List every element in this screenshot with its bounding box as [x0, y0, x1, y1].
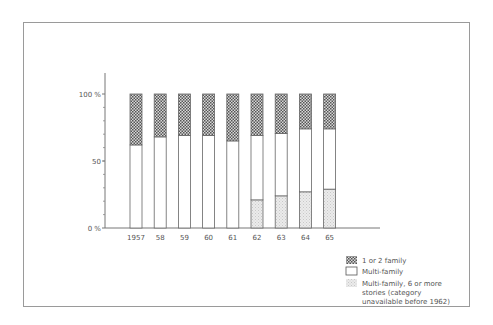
bar-segment [324, 129, 336, 189]
bar-segment [178, 94, 190, 136]
stacked-bar-chart: 0 %50100 % 19575859606162636465 1 or 2 f… [0, 0, 493, 325]
bar-segment [299, 192, 311, 228]
legend-label: Multi-family [362, 268, 403, 276]
bar-segment [324, 189, 336, 228]
legend-entry: Multi-family [346, 267, 403, 276]
x-tick-label: 60 [204, 234, 213, 242]
x-tick-label: 64 [301, 234, 310, 242]
bar-segment [203, 136, 215, 228]
bar-65: 65 [324, 94, 336, 242]
bar-segment [251, 200, 263, 228]
bar-61: 61 [227, 94, 239, 242]
bar-64: 64 [299, 94, 311, 242]
bar-segment [130, 145, 142, 228]
bar-63: 63 [275, 94, 287, 242]
legend-entry: 1 or 2 family [346, 256, 406, 265]
bar-segment [324, 94, 336, 129]
bar-60: 60 [203, 94, 215, 242]
x-tick-label: 63 [277, 234, 286, 242]
bar-segment [130, 94, 142, 145]
legend-label: Multi-family, 6 or more [362, 280, 442, 288]
x-tick-label: 59 [180, 234, 189, 242]
bar-59: 59 [178, 94, 190, 242]
legend-swatch [346, 256, 357, 264]
bar-62: 62 [251, 94, 263, 242]
x-tick-label: 58 [156, 234, 165, 242]
x-tick-label: 62 [253, 234, 262, 242]
legend-label: stories (category [362, 289, 421, 297]
bar-segment [299, 129, 311, 192]
bar-segment [275, 196, 287, 228]
bars: 19575859606162636465 [127, 94, 336, 242]
bar-segment [275, 94, 287, 134]
x-tick-label: 65 [325, 234, 334, 242]
bar-segment [203, 94, 215, 136]
legend-label: 1 or 2 family [362, 257, 406, 265]
bar-segment [154, 137, 166, 228]
y-tick-label: 100 % [79, 91, 102, 99]
bar-segment [251, 136, 263, 200]
legend: 1 or 2 familyMulti-familyMulti-family, 6… [346, 256, 450, 306]
bar-segment [275, 134, 287, 196]
legend-label: unavailable before 1962) [362, 298, 450, 306]
bar-segment [178, 136, 190, 228]
bar-segment [227, 141, 239, 228]
bar-segment [299, 94, 311, 129]
y-tick-label: 50 [92, 158, 101, 166]
bar-segment [251, 94, 263, 136]
x-tick-label: 61 [228, 234, 237, 242]
y-tick-label: 0 % [88, 225, 102, 233]
bar-1957: 1957 [127, 94, 145, 242]
x-tick-label: 1957 [127, 234, 145, 242]
legend-entry: Multi-family, 6 or morestories (category… [346, 279, 450, 306]
legend-swatch [346, 279, 357, 287]
bar-segment [154, 94, 166, 137]
legend-swatch [346, 267, 357, 275]
bar-58: 58 [154, 94, 166, 242]
bar-segment [227, 94, 239, 141]
